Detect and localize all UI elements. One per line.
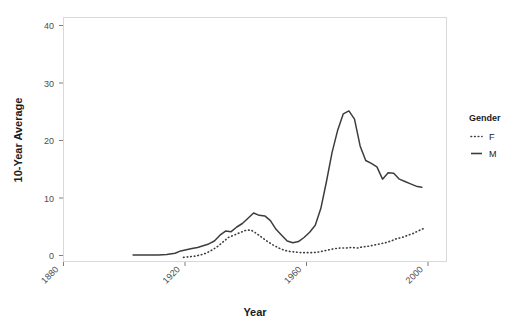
line-chart-svg: 40 30 20 10 0 10-Year Average 1880 1920 … <box>0 0 518 331</box>
y-tick-label-20: 20 <box>44 136 54 146</box>
legend-label-m: M <box>489 149 497 159</box>
legend-item-m[interactable]: M <box>469 146 497 161</box>
y-tick-label-30: 30 <box>44 79 54 89</box>
legend-item-f[interactable]: F <box>469 129 495 144</box>
legend-label-f: F <box>489 132 495 142</box>
y-axis-title: 10-Year Average <box>12 98 24 183</box>
x-axis-title: Year <box>243 306 267 318</box>
legend-title: Gender <box>469 113 501 123</box>
chart-figure: 40 30 20 10 0 10-Year Average 1880 1920 … <box>0 0 518 331</box>
y-tick-label-10: 10 <box>44 194 54 204</box>
y-tick-label-40: 40 <box>44 21 54 31</box>
y-tick-label-0: 0 <box>49 251 54 261</box>
plot-panel-background <box>63 17 447 262</box>
